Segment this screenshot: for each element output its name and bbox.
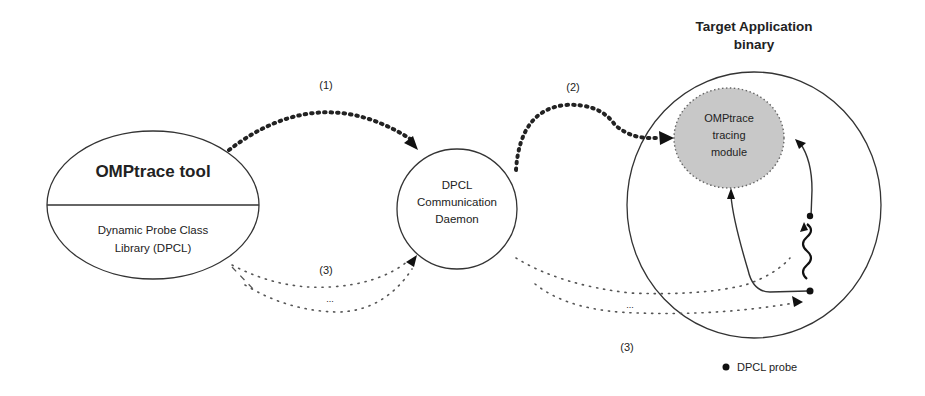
dpcl-daemon-label-line2: Communication: [417, 196, 497, 208]
omptrace-tool-node: OMPtrace tool Dynamic Probe Class Librar…: [47, 131, 259, 279]
dpcl-daemon-label-line3: Daemon: [435, 213, 478, 225]
dpcl-probe-dot-upper: [807, 213, 813, 219]
probe-to-module-path-right: [800, 143, 812, 217]
legend: DPCL probe: [723, 361, 798, 373]
arrowhead-up-icon: [795, 139, 806, 149]
target-application-title-line1: Target Application: [695, 19, 812, 34]
arrowhead-icon: [404, 136, 418, 150]
arrowhead-icon: [406, 255, 417, 267]
tracing-module-label-line3: module: [711, 146, 747, 158]
edge-step-2-path: [516, 105, 660, 170]
arrowhead-icon: [792, 296, 803, 307]
edge-step-3-left-label: (3): [319, 264, 332, 276]
tracing-module-label-line1: OMPtrace: [704, 112, 754, 124]
arrowhead-icon: [659, 131, 674, 145]
probe-to-module-path-left: [731, 196, 808, 292]
code-region-squiggle: [803, 224, 811, 279]
edge-step-3-right: ... (3): [516, 258, 803, 353]
dpcl-library-label-line2: Library (DPCL): [115, 242, 192, 254]
dpcl-daemon-label-line1: DPCL: [442, 179, 473, 191]
edge-step-3-left: (3) ...: [232, 255, 417, 312]
legend-probe-dot-icon: [723, 364, 730, 371]
dpcl-probe-dot-lower: [807, 288, 814, 295]
edge-step-3-right-label: (3): [620, 341, 633, 353]
edge-step-3-right-lower: [535, 284, 800, 314]
omptrace-tool-title: OMPtrace tool: [95, 162, 210, 181]
target-application-title-line2: binary: [734, 37, 775, 52]
omptrace-architecture-diagram: OMPtrace tool Dynamic Probe Class Librar…: [0, 0, 925, 396]
edge-step-1: (1): [229, 79, 418, 150]
edge-step-3-right-upper: [516, 258, 790, 294]
tracing-module-node: OMPtrace tracing module: [674, 88, 784, 188]
target-application-node: Target Application binary OMPtrace traci…: [627, 19, 881, 338]
edge-step-3-left-ellipsis: ...: [326, 294, 334, 304]
legend-probe-label: DPCL probe: [737, 361, 797, 373]
edge-step-1-path: [229, 112, 412, 150]
edge-step-2: (2): [516, 81, 674, 170]
tracing-module-label-line2: tracing: [712, 129, 745, 141]
dpcl-daemon-node: DPCL Communication Daemon: [397, 149, 517, 269]
edge-step-1-label: (1): [319, 79, 332, 91]
arrowhead-up-icon: [800, 222, 808, 232]
dpcl-daemon-outline: [397, 149, 517, 269]
edge-step-2-label: (2): [566, 81, 579, 93]
dpcl-library-label-line1: Dynamic Probe Class: [98, 224, 209, 236]
edge-step-3-left-dash: [232, 267, 256, 292]
edge-step-3-right-ellipsis: ...: [626, 300, 634, 310]
arrowhead-up-icon: [727, 188, 735, 199]
